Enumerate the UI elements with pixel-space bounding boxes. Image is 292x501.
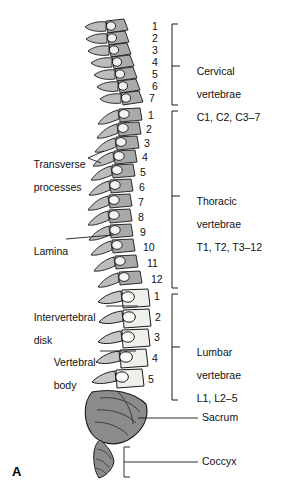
region-label-thoracic: Thoracic vertebrae T1, T2, T3–12 [185,184,262,265]
lumbar-number-1: 1 [154,291,160,302]
cervical-number-2: 2 [152,33,158,44]
thoracic-number-3: 3 [144,138,150,149]
region-brackets [172,24,180,400]
panel-label: A [12,464,21,479]
cervical-number-5: 5 [152,69,158,80]
cervical-vertebrae-group [85,19,143,105]
cervical-number-7: 7 [149,93,155,104]
coccyx-illustration [94,440,114,478]
figure-canvas: Transverse processes Lamina Intervertebr… [0,0,292,501]
region-label-cervical: Cervical vertebrae C1, C2, C3–7 [185,54,260,135]
lumbar-vertebrae-group [92,289,151,388]
thoracic-number-1: 1 [148,110,154,121]
thoracic-vertebrae-group [88,108,142,287]
label-coccyx: Coccyx [202,456,236,468]
thoracic-number-8: 8 [138,212,144,223]
region-label-lumbar: Lumbar vertebrae L1, L2–5 [185,335,241,416]
cervical-number-1: 1 [152,21,158,32]
lumbar-number-4: 4 [152,353,158,364]
thoracic-number-12: 12 [151,274,163,285]
thoracic-number-5: 5 [140,167,146,178]
thoracic-number-11: 11 [147,258,158,269]
cervical-number-3: 3 [152,45,158,56]
cervical-number-4: 4 [152,57,158,68]
thoracic-number-6: 6 [139,182,145,193]
lumbar-number-3: 3 [154,332,160,343]
label-sacrum: Sacrum [202,412,238,424]
label-transverse-processes: Transverse processes [22,147,86,205]
thoracic-number-4: 4 [142,152,148,163]
thoracic-number-9: 9 [140,227,146,238]
cervical-number-6: 6 [152,81,158,92]
thoracic-number-10: 10 [143,242,155,253]
lumbar-number-2: 2 [155,312,161,323]
label-vertebral-body: Vertebral body [42,345,96,403]
lumbar-number-5: 5 [148,374,154,385]
label-lamina: Lamina [22,234,68,269]
thoracic-number-7: 7 [138,197,144,208]
thoracic-number-2: 2 [146,124,152,135]
